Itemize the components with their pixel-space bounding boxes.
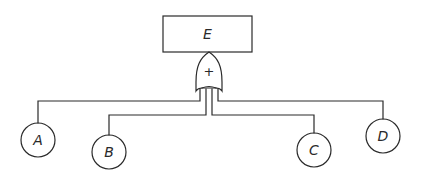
basic-event-label: D: [378, 128, 389, 144]
connector-b: [109, 89, 206, 135]
top-event-label: E: [203, 26, 212, 42]
basic-event-label: A: [32, 132, 43, 148]
or-gate-symbol: +: [204, 64, 215, 79]
basic-event-c: C: [297, 133, 331, 167]
basic-event-a: A: [21, 123, 55, 157]
top-event-e: E: [163, 16, 252, 52]
basic-event-b: B: [92, 135, 126, 169]
basic-event-label: C: [309, 142, 319, 158]
connector-a: [38, 89, 200, 123]
connector-c: [212, 89, 314, 133]
or-gate: +: [196, 52, 222, 91]
connector-lines: [38, 89, 383, 135]
basic-event-d: D: [366, 119, 400, 153]
basic-event-label: B: [104, 144, 114, 160]
fault-tree-diagram: E + A B C D: [0, 0, 422, 177]
